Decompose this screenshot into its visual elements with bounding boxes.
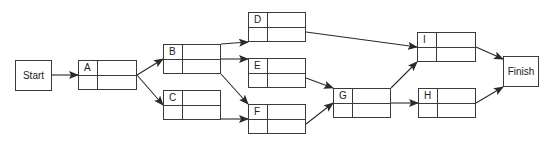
activity-cell [353, 89, 390, 104]
edge-a-c [137, 75, 163, 105]
activity-cell [437, 33, 475, 48]
activity-cell [164, 106, 183, 119]
edge-b-f [221, 74, 248, 104]
activity-cell [183, 106, 220, 119]
edge-g-i [391, 62, 417, 88]
activity-cell [437, 48, 475, 61]
activity-cell [79, 76, 98, 89]
activity-node-b: B [163, 44, 221, 74]
activity-node-a: A [78, 60, 137, 90]
activity-label: F [249, 105, 268, 120]
start-label: Start [23, 70, 44, 81]
finish-node: Finish [503, 56, 539, 87]
activity-cell [353, 104, 390, 117]
start-node: Start [15, 60, 52, 91]
activity-cell [183, 45, 220, 60]
edge-i-finish [476, 47, 503, 59]
activity-cell [268, 74, 305, 87]
activity-cell [98, 76, 136, 89]
activity-cell [268, 28, 305, 41]
activity-node-f: F [248, 104, 306, 134]
edge-e-g [306, 78, 333, 88]
activity-label: B [164, 45, 183, 60]
activity-node-e: E [248, 58, 306, 88]
activity-node-h: H [418, 88, 476, 118]
activity-node-d: D [248, 12, 306, 42]
activity-label: A [79, 61, 98, 76]
activity-cell [249, 28, 268, 41]
activity-cell [183, 91, 220, 106]
activity-node-i: I [417, 32, 476, 62]
edge-f-g [306, 103, 333, 124]
edge-a-b [137, 59, 163, 75]
activity-cell [419, 104, 438, 117]
activity-cell [438, 104, 475, 117]
activity-cell [249, 74, 268, 87]
activity-cell [438, 89, 475, 104]
activity-label: H [419, 89, 438, 104]
activity-cell [418, 48, 437, 61]
edge-b-d [221, 42, 248, 44]
activity-cell [98, 61, 136, 76]
activity-cell [268, 105, 305, 120]
activity-label: E [249, 59, 268, 74]
finish-label: Finish [508, 66, 535, 77]
activity-cell [268, 13, 305, 28]
edge-d-i [306, 32, 417, 47]
activity-label: G [334, 89, 353, 104]
activity-cell [268, 59, 305, 74]
activity-label: D [249, 13, 268, 28]
activity-cell [183, 60, 220, 73]
activity-node-c: C [163, 90, 221, 120]
activity-cell [334, 104, 353, 117]
activity-label: C [164, 91, 183, 106]
activity-node-g: G [333, 88, 391, 118]
activity-cell [268, 120, 305, 133]
activity-cell [164, 60, 183, 73]
edge-h-finish [476, 87, 503, 103]
activity-label: I [418, 33, 437, 48]
activity-cell [249, 120, 268, 133]
